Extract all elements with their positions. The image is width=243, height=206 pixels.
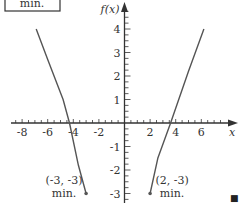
y-tick-label: 4: [114, 23, 121, 36]
y-tick-label: -2: [110, 164, 121, 177]
curve-right-branch: [150, 29, 204, 194]
min-point: [84, 192, 88, 196]
x-axis-label: x: [229, 126, 236, 139]
min-point-label: (-3, -3): [46, 174, 83, 187]
y-axis-label: f(x): [100, 3, 120, 16]
y-tick-label: 2: [114, 70, 121, 83]
end-of-proof-mark: ■: [230, 193, 239, 203]
x-tick-label: -6: [42, 126, 53, 139]
axes: [11, 2, 238, 203]
min-point-label: (2, -3): [155, 174, 188, 187]
function-graph: min. -8-6-4-22464321-1-2-3 (-3, -3)min.(…: [0, 0, 243, 206]
min-point-sublabel: min.: [160, 187, 185, 200]
y-tick-label: 3: [114, 47, 121, 60]
x-tick-label: 4: [172, 126, 179, 139]
curve-left-branch: [36, 29, 86, 194]
y-tick-label: -1: [110, 141, 121, 154]
min-point-sublabel: min.: [52, 187, 77, 200]
y-tick-label: -3: [110, 188, 121, 201]
x-tick-label: -2: [94, 126, 105, 139]
min-point: [148, 192, 152, 196]
x-tick-label: 6: [198, 126, 205, 139]
x-tick-label: -4: [68, 126, 79, 139]
boxed-note-text: min.: [20, 0, 45, 10]
boxed-note: min.: [5, 0, 60, 11]
x-tick-label: -8: [17, 126, 28, 139]
x-tick-label: 2: [147, 126, 154, 139]
y-axis-arrow: [121, 2, 128, 12]
y-tick-label: 1: [114, 94, 121, 107]
